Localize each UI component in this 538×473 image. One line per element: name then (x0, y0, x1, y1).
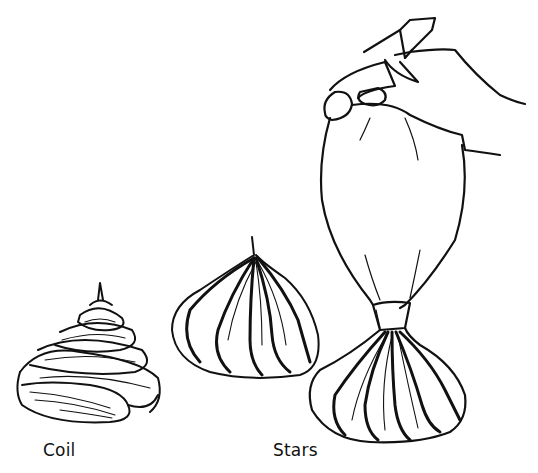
caption-coil: Coil (43, 440, 76, 460)
caption-stars: Stars (273, 440, 318, 460)
piping-bag-with-hand (310, 18, 525, 442)
star-meringue (172, 237, 319, 378)
line-drawing (0, 0, 538, 473)
coil-meringue (17, 283, 159, 422)
illustration-canvas: Coil Stars (0, 0, 538, 473)
